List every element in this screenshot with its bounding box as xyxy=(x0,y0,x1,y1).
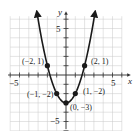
data-point xyxy=(82,63,87,68)
y-axis-label: y xyxy=(57,7,62,17)
point-label-neg1-neg2: (−1, −2) xyxy=(27,90,54,99)
x-axis-label: x xyxy=(127,76,132,86)
point-label-2-1: (2, 1) xyxy=(91,57,109,66)
point-label-0-neg3: (0, −3) xyxy=(70,103,92,112)
y-tick-label-neg5: −5 xyxy=(50,116,60,126)
parabola-chart: x y −5 5 5 −5 (−2, 1) (2, 1) (−1, −2) (1… xyxy=(0,0,137,131)
data-point xyxy=(73,91,78,96)
point-label-neg2-1: (−2, 1) xyxy=(22,57,44,66)
axes xyxy=(8,13,129,129)
y-tick-label-5: 5 xyxy=(56,24,61,34)
x-tick-label-5: 5 xyxy=(111,78,116,88)
x-tick-label-neg5: −5 xyxy=(9,78,19,88)
data-point xyxy=(45,63,50,68)
data-point xyxy=(54,91,59,96)
point-label-1-neg2: (1, −2) xyxy=(83,87,105,96)
data-point xyxy=(63,100,68,105)
